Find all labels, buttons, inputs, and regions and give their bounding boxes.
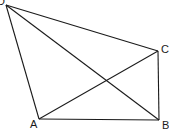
quadrilateral-diagram: D C B A <box>0 0 169 130</box>
diagonal-AC <box>39 51 158 119</box>
vertex-label-a: A <box>30 118 38 130</box>
vertex-label-b: B <box>162 119 169 130</box>
vertex-label-c: C <box>161 43 169 55</box>
edge-DC <box>6 5 158 51</box>
edges-group <box>6 5 159 120</box>
edge-BA <box>39 119 159 120</box>
edge-CB <box>158 51 159 120</box>
diagonal-DB <box>6 5 159 120</box>
vertex-label-d: D <box>0 0 5 7</box>
edge-AD <box>6 5 39 119</box>
